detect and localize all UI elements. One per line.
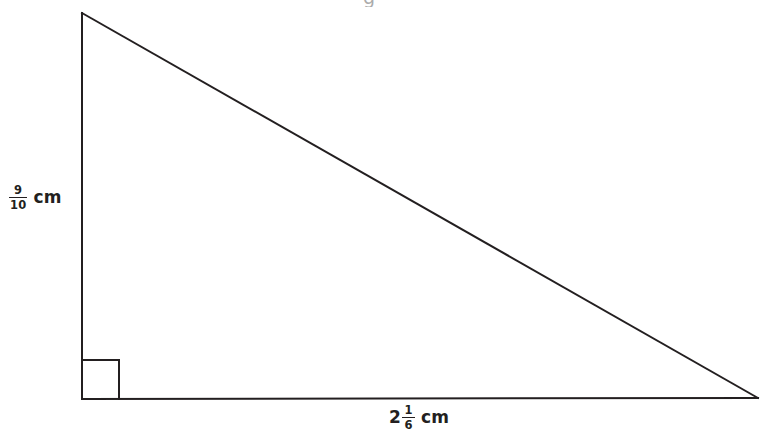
height-fraction: 9 10 <box>9 184 27 211</box>
base-fraction: 1 6 <box>402 404 415 431</box>
triangle-hypotenuse <box>82 13 758 398</box>
figure-canvas: 9 10 cm 2 1 6 cm g <box>0 0 768 435</box>
base-dimension-label: 2 1 6 cm <box>389 404 449 431</box>
height-denominator: 10 <box>9 198 27 211</box>
base-numerator: 1 <box>403 404 413 417</box>
triangle-base-leg <box>82 398 758 399</box>
triangle-drawing <box>0 0 768 435</box>
height-numerator: 9 <box>13 184 23 197</box>
base-unit: cm <box>415 409 449 426</box>
height-unit: cm <box>27 189 61 206</box>
height-dimension-label: 9 10 cm <box>9 184 62 211</box>
right-angle-marker-icon <box>84 360 119 399</box>
base-denominator: 6 <box>403 418 413 431</box>
base-whole-number: 2 <box>389 409 402 426</box>
